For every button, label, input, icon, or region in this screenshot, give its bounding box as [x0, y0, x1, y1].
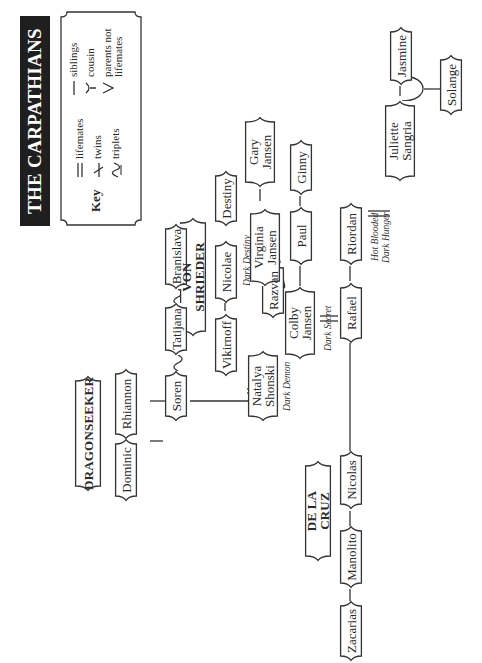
- person-name: Manolito: [345, 523, 358, 591]
- person-natalya-shonski[interactable]: NatalyaShonski: [248, 351, 278, 421]
- book-title-hot-blooded: Hot Blooded: [370, 213, 381, 261]
- person-solange[interactable]: Solange: [440, 55, 462, 115]
- person-name: Destiny: [220, 168, 233, 228]
- person-name: Zacarias: [345, 599, 358, 663]
- person-name: Vikirnoff: [220, 311, 233, 379]
- triplets-icon: [110, 162, 122, 178]
- family-name: VON SHRIEDER: [180, 218, 206, 336]
- person-name: Rafael: [345, 286, 358, 340]
- legend-label: parents not lifemates: [102, 16, 124, 77]
- person-surname: Jansen: [300, 296, 313, 351]
- person-name: Dominic: [120, 437, 133, 503]
- legend-key: Key lifemates twins triplets siblings co…: [60, 11, 142, 226]
- y-icon: [85, 80, 97, 96]
- page-title: THE CARPATHIANS: [20, 16, 50, 226]
- person-name: Rhiannon: [120, 369, 133, 440]
- person-rhiannon[interactable]: Rhiannon: [115, 369, 137, 439]
- person-vikirnoff[interactable]: Vikirnoff: [215, 314, 237, 376]
- person-name: Soren: [170, 371, 183, 421]
- person-colby-jansen[interactable]: ColbyJansen: [285, 287, 315, 359]
- legend-label: triplets: [110, 128, 121, 159]
- legend-label: twins: [92, 135, 103, 159]
- legend-label: lifemates: [74, 119, 85, 159]
- person-name: Nicolae: [220, 242, 233, 302]
- person-name: Paul: [295, 214, 308, 257]
- person-juliette-sangria[interactable]: JulietteSangria: [385, 101, 415, 181]
- person-name: Branislava: [170, 219, 183, 295]
- single-line-icon: [68, 80, 80, 96]
- person-jasmine[interactable]: Jasmine: [390, 27, 412, 85]
- person-name: Jasmine: [395, 25, 408, 87]
- person-nicolae[interactable]: Nicolae: [215, 241, 237, 303]
- book-title-dark-secret: Dark Secret: [323, 306, 334, 351]
- family-label-von-shrieder: VON SHRIEDER: [180, 218, 206, 336]
- family-label-dragonseeker: DRAGONSEEKER: [75, 376, 101, 491]
- family-name: DRAGONSEEKER: [82, 367, 95, 500]
- family-name: DE LA CRUZ: [305, 461, 331, 561]
- legend-item-twins: twins: [92, 135, 104, 178]
- person-name: Solange: [445, 54, 458, 116]
- person-gary-jansen[interactable]: GaryJansen: [245, 117, 275, 187]
- person-name: Ginny: [295, 141, 308, 194]
- legend-label: siblings: [68, 43, 79, 77]
- person-dominic[interactable]: Dominic: [115, 439, 137, 501]
- person-soren[interactable]: Soren: [165, 371, 187, 421]
- person-ginny[interactable]: Ginny: [290, 140, 312, 195]
- book-title-dark-demon: Dark Demon: [282, 362, 293, 411]
- person-riordan[interactable]: Riordan: [340, 203, 362, 265]
- person-zacarias[interactable]: Zacarias: [340, 601, 362, 661]
- legend-label: cousin: [85, 48, 96, 77]
- person-manolito[interactable]: Manolito: [340, 526, 362, 588]
- person-virginia-jansen[interactable]: VirginiaJansen: [250, 209, 280, 286]
- person-name: Nicolas: [345, 450, 358, 510]
- book-title-dark-hunger: Dark Hunger: [381, 212, 392, 263]
- v-icon: [102, 80, 114, 96]
- person-surname: Shonski: [263, 355, 276, 417]
- double-line-icon: [74, 162, 86, 178]
- person-surname: Jansen: [265, 220, 278, 275]
- family-label-de-la-cruz: DE LA CRUZ: [305, 461, 331, 561]
- person-rafael[interactable]: Rafael: [340, 283, 362, 343]
- person-name: Riordan: [345, 203, 358, 265]
- twins-icon: [92, 162, 104, 178]
- person-name: Tatijana: [170, 298, 183, 360]
- person-nicolas[interactable]: Nicolas: [340, 451, 362, 509]
- person-surname: Sangria: [400, 111, 413, 171]
- legend-item-triplets: triplets: [110, 128, 122, 178]
- legend-item-lifemates: lifemates: [74, 119, 86, 178]
- legend-item-siblings: siblings: [68, 43, 80, 96]
- legend-title: Key: [88, 190, 104, 212]
- person-surname: Jansen: [260, 125, 273, 180]
- legend-item-cousin: cousin: [85, 48, 97, 96]
- person-destiny[interactable]: Destiny: [215, 171, 237, 226]
- person-paul[interactable]: Paul: [290, 207, 312, 265]
- legend-item-parents-not-lifemates: parents not lifemates: [102, 16, 124, 96]
